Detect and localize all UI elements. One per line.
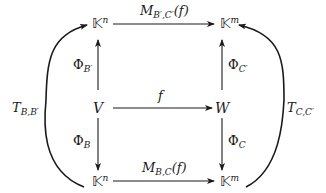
label-top-arrow: MB′,C′(f)	[140, 4, 189, 20]
node-bottom-right: 𝕂m	[220, 174, 239, 188]
label-right-up-arrow: ΦC′	[228, 58, 248, 74]
label-left-up-arrow: ΦB′	[73, 58, 92, 74]
node-top-right: 𝕂m	[220, 16, 239, 30]
arrow-left-curve	[45, 25, 87, 187]
node-mid-right: W	[215, 101, 229, 115]
node-top-left: 𝕂n	[92, 16, 108, 30]
label-left-curve-arrow: TB,B′	[12, 101, 39, 117]
label-right-down-arrow: ΦC	[228, 134, 246, 150]
label-left-down-arrow: ΦB	[73, 134, 90, 150]
label-right-curve-arrow: TC,C′	[287, 101, 314, 117]
node-mid-left: V	[93, 101, 103, 115]
node-bottom-left: 𝕂n	[92, 174, 108, 188]
label-bottom-arrow: MB,C(f)	[142, 161, 187, 177]
arrow-right-curve	[239, 25, 284, 187]
label-middle-arrow: f	[158, 89, 163, 102]
